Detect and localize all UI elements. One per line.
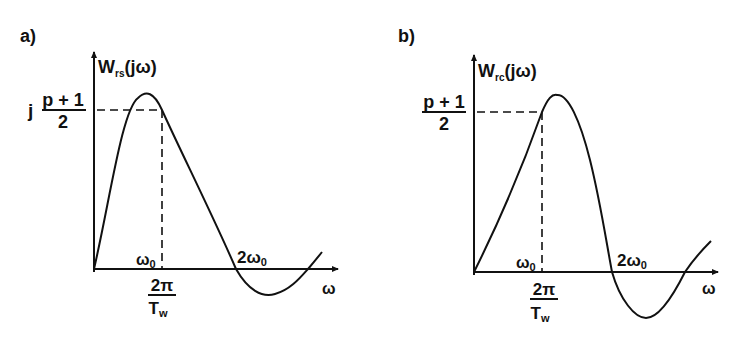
omega0-label: ω0: [136, 251, 156, 270]
panel-b: b) Wrc(jω) p + 1 2 ω0 2ω0 2π Tw ω: [398, 26, 718, 324]
y-axis-label: Wrs(jω): [98, 57, 157, 79]
svg-text:2π: 2π: [533, 280, 555, 299]
x-axis-label: ω: [702, 280, 716, 297]
response-curve: [94, 94, 322, 295]
y-axis-label: Wrc(jω): [478, 61, 537, 83]
svg-text:p + 1: p + 1: [423, 92, 465, 112]
x-axis-label: ω: [322, 280, 336, 297]
svg-text:j: j: [27, 100, 33, 121]
panel-a: a) Wrs(jω) j p + 1 2 ω0 2ω0 2π Tw ω: [20, 26, 338, 319]
svg-text:Tw: Tw: [531, 304, 550, 324]
svg-text:p + 1: p + 1: [42, 90, 84, 110]
svg-text:2: 2: [439, 114, 449, 134]
panel-label: b): [398, 26, 415, 46]
diagram-canvas: a) Wrs(jω) j p + 1 2 ω0 2ω0 2π Tw ω b): [0, 0, 736, 343]
period-label: 2π Tw: [148, 276, 176, 319]
svg-text:2π: 2π: [151, 276, 173, 295]
level-label: j p + 1 2: [27, 90, 86, 132]
period-label: 2π Tw: [530, 280, 558, 324]
level-label: p + 1 2: [422, 92, 466, 134]
two-omega0-label: 2ω0: [237, 248, 267, 268]
two-omega0-label: 2ω0: [617, 251, 647, 271]
svg-text:2: 2: [58, 112, 68, 132]
panel-label: a): [20, 26, 36, 46]
omega0-label: ω0: [516, 254, 536, 273]
response-curve: [474, 95, 711, 318]
svg-text:Tw: Tw: [149, 299, 168, 319]
